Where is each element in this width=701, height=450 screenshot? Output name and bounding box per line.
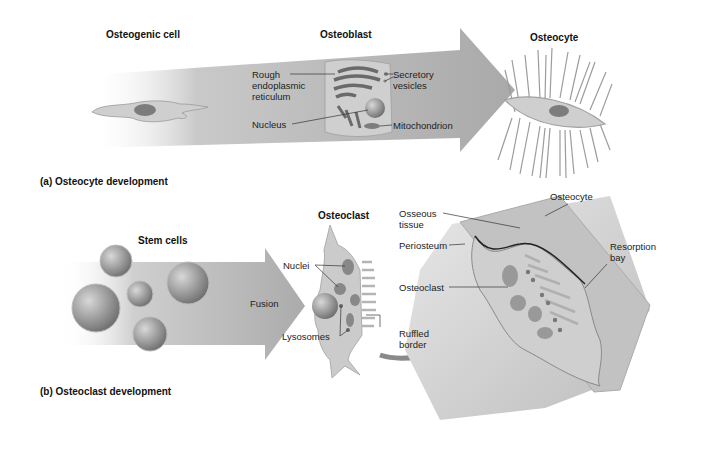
label-ruffled-line2: border [399, 339, 426, 350]
label-osteogenic-cell: Osteogenic cell [106, 29, 180, 40]
label-periosteum: Periosteum [399, 240, 447, 251]
label-osteoclast: Osteoclast [318, 210, 369, 221]
label-fusion: Fusion [250, 298, 279, 309]
label-rough-er-line2: endoplasmic [252, 80, 305, 91]
label-rough-er-line1: Rough [252, 69, 280, 80]
osteoclast-illustration [312, 225, 376, 378]
label-osteoblast: Osteoblast [320, 29, 372, 40]
label-osteocyte: Osteocyte [530, 32, 578, 43]
label-stem-cells: Stem cells [138, 235, 187, 246]
label-osseous-line1: Osseous [399, 208, 437, 219]
label-secretory-line2: vesicles [393, 80, 427, 91]
label-nucleus: Nucleus [252, 119, 286, 130]
label-osteoclast-inset: Osteoclast [399, 282, 444, 293]
label-rough-er-line3: reticulum [252, 91, 291, 102]
label-ruffled-line1: Ruffled [399, 328, 429, 339]
label-osseous-line2: tissue [399, 219, 424, 230]
label-lysosomes: Lysosomes [282, 331, 330, 342]
osteoblast-illustration [325, 60, 392, 137]
label-nuclei: Nuclei [283, 260, 309, 271]
osteocyte-illustration [498, 48, 612, 178]
caption-panel-a: (a) Osteocyte development [40, 176, 168, 187]
label-secretory-line1: Secretory [393, 69, 434, 80]
diagram-artwork [0, 0, 701, 450]
bone-resorption-inset [405, 196, 650, 420]
caption-panel-b: (b) Osteoclast development [40, 386, 171, 397]
label-resorption-line1: Resorption [610, 241, 656, 252]
label-osteocyte-inset: Osteocyte [550, 191, 593, 202]
label-mitochondrion: Mitochondrion [393, 120, 453, 131]
label-resorption-line2: bay [610, 252, 625, 263]
